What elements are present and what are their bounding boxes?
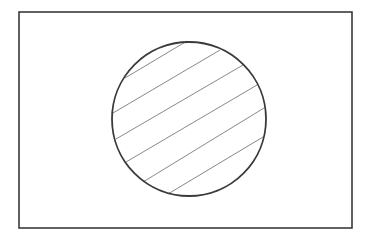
hatch-line <box>126 85 257 162</box>
set-circle <box>112 42 266 196</box>
hatch-line <box>168 137 263 194</box>
hatch-line <box>113 50 220 113</box>
venn-diagram <box>0 0 368 241</box>
hatch-line <box>116 65 243 139</box>
hatch-line <box>125 41 187 78</box>
